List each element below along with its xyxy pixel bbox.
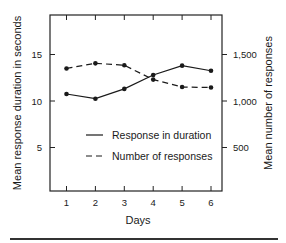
- data-point: [64, 92, 69, 97]
- data-point: [209, 68, 214, 73]
- left-y-tick-label: 5: [37, 142, 42, 153]
- x-axis-label: Days: [125, 214, 151, 226]
- right-y-tick-label: 1,000: [233, 96, 257, 107]
- x-tick-label: 1: [64, 197, 69, 208]
- right-y-axis-label: Mean number of responses: [262, 36, 274, 170]
- legend-label: Response in duration: [112, 129, 211, 141]
- x-tick-label: 5: [179, 197, 184, 208]
- data-series: [64, 61, 213, 101]
- plot-frame: [50, 15, 222, 191]
- response-duration-line: [67, 66, 212, 99]
- x-tick-label: 4: [151, 197, 156, 208]
- data-point: [122, 63, 127, 68]
- data-point: [64, 66, 69, 71]
- legend: Response in durationNumber of responses: [86, 129, 212, 162]
- left-y-axis-label: Mean response duration in seconds: [11, 15, 23, 190]
- data-point: [180, 85, 185, 90]
- data-point: [180, 63, 185, 68]
- x-tick-label: 6: [208, 197, 213, 208]
- x-tick-label: 2: [93, 197, 98, 208]
- data-point: [93, 96, 98, 101]
- legend-label: Number of responses: [112, 150, 212, 162]
- right-y-tick-label: 1,500: [233, 49, 257, 60]
- plot-border: [50, 15, 222, 191]
- right-y-tick-label: 500: [233, 142, 249, 153]
- dual-axis-line-chart: 123456510155001,0001,500 Response in dur…: [0, 0, 286, 243]
- data-point: [209, 85, 214, 90]
- bottom-rule: [10, 238, 278, 240]
- data-point: [151, 73, 156, 78]
- data-point: [151, 77, 156, 82]
- data-point: [93, 61, 98, 66]
- left-y-tick-label: 15: [31, 49, 42, 60]
- left-y-tick-label: 10: [31, 96, 42, 107]
- axis-ticks: 123456510155001,0001,500: [31, 15, 256, 208]
- x-tick-label: 3: [122, 197, 127, 208]
- data-point: [122, 87, 127, 92]
